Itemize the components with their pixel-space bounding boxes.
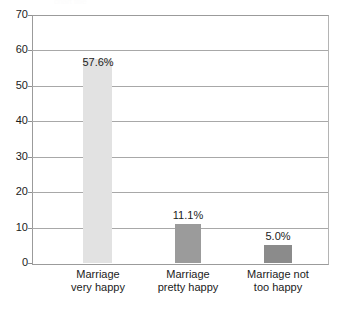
y-axis-label-30: 30 [4,151,28,162]
bar-chart-figure: chart title 70 60 50 40 30 20 10 0 [0,0,349,309]
x-label-line-2: pretty happy [142,281,234,294]
y-axis-label-70: 70 [4,9,28,20]
clipped-title-artifact: chart title [54,0,134,4]
y-axis-label-0: 0 [4,257,28,268]
y-axis-labels: 70 60 50 40 30 20 10 0 [0,0,28,309]
y-axis-label-10: 10 [4,222,28,233]
y-axis-label-20: 20 [4,186,28,197]
x-label-line-1: Marriage [52,268,144,281]
x-label-line-1: Marriage not [232,268,324,281]
x-label-line-1: Marriage [142,268,234,281]
x-axis-label-marriage-very-happy: Marriage very happy [52,268,144,294]
y-axis-label-60: 60 [4,44,28,55]
x-axis-label-marriage-pretty-happy: Marriage pretty happy [142,268,234,294]
plot-area [32,15,329,265]
y-axis-label-50: 50 [4,80,28,91]
x-label-line-2: too happy [232,281,324,294]
x-axis-label-marriage-not-too-happy: Marriage not too happy [232,268,324,294]
x-label-line-2: very happy [52,281,144,294]
y-axis-label-40: 40 [4,115,28,126]
